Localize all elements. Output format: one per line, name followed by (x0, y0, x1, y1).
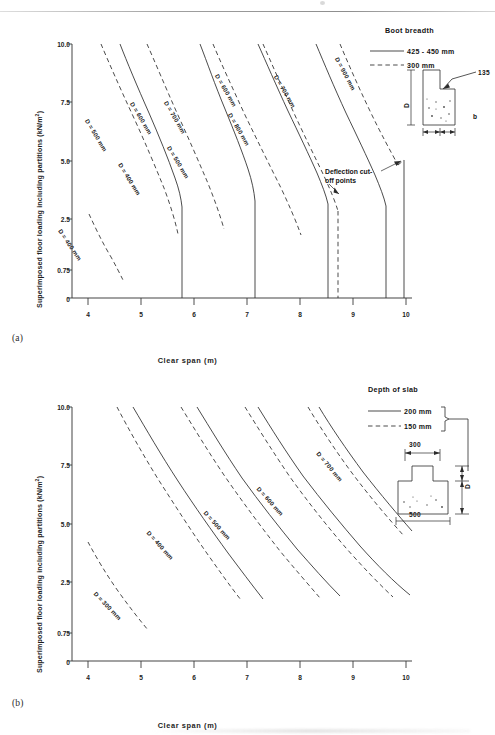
scan-smudge-bottom (150, 729, 470, 733)
scan-speck (320, 1, 325, 5)
inset-tee-section-b (396, 449, 469, 525)
chart-panel-a: (a) Superimposed floor loading including… (0, 8, 495, 376)
plot-area-a (0, 8, 495, 376)
figure-page: (a) Superimposed floor loading including… (0, 0, 495, 735)
plot-area-b (0, 371, 495, 735)
inset-boot-section-a (407, 70, 476, 136)
chart-panel-b: (b) Superimposed floor loading including… (0, 371, 495, 735)
